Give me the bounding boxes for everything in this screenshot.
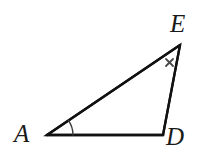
- vertex-label-A: A: [14, 121, 29, 146]
- geometry-figure: A D E: [0, 0, 201, 162]
- vertex-label-E: E: [170, 11, 185, 36]
- vertex-label-D: D: [166, 124, 184, 149]
